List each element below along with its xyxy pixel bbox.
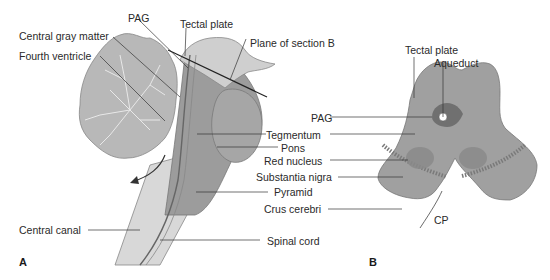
panel-letter-a: A	[19, 256, 27, 268]
label-pyramid: Pyramid	[274, 186, 313, 198]
cerebellum-shape	[79, 34, 177, 159]
label-substantia-nigra: Substantia nigra	[256, 171, 332, 183]
panel-letter-b: B	[369, 256, 377, 268]
label-fourth-ventricle: Fourth ventricle	[19, 50, 91, 62]
red-nucleus-right	[459, 147, 487, 169]
label-pons: Pons	[281, 142, 305, 154]
label-plane-of-section: Plane of section B	[250, 37, 335, 49]
label-pag-a: PAG	[128, 12, 149, 24]
label-central-canal: Central canal	[19, 224, 81, 236]
label-spinal-cord: Spinal cord	[267, 235, 320, 247]
panel-b-artwork	[378, 62, 537, 228]
midbrain-section-shape	[378, 62, 537, 200]
label-tectal-plate-b: Tectal plate	[405, 44, 458, 56]
label-central-gray-matter: Central gray matter	[19, 30, 109, 42]
brainstem-diagram: PAG Tectal plate Central gray matter Fou…	[0, 0, 550, 280]
label-crus-cerebri: Crus cerebri	[264, 203, 321, 215]
label-pag-b: PAG	[311, 112, 332, 124]
label-tectal-plate-a: Tectal plate	[180, 18, 233, 30]
label-aqueduct: Aqueduct	[434, 57, 478, 69]
flow-arrowhead	[130, 176, 139, 184]
label-cp: CP	[434, 214, 449, 226]
label-red-nucleus: Red nucleus	[264, 155, 322, 167]
label-tegmentum-a: Tegmentum	[266, 129, 321, 141]
red-nucleus-left	[406, 147, 434, 169]
pons-shape	[212, 89, 262, 162]
